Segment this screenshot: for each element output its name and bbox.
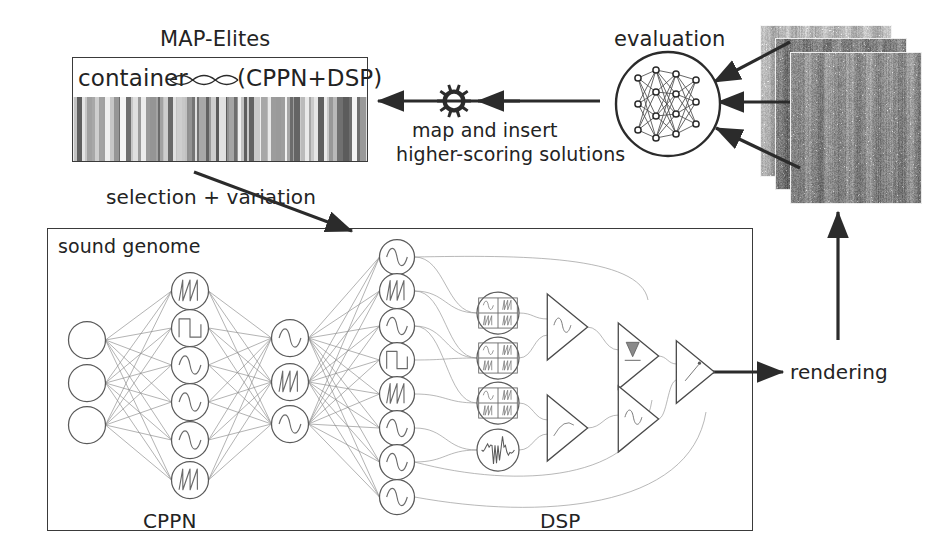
container-label: container: [78, 66, 188, 92]
map-elites-title: MAP-Elites: [160, 28, 270, 52]
yamnet-label: YAMNet: [645, 60, 695, 75]
sound-genome-title: sound genome: [58, 236, 201, 257]
rendering-label: rendering: [790, 361, 888, 383]
diagram-canvas: MAP-Elites container (CPPN+DSP) selectio…: [0, 0, 949, 552]
evaluation-title: evaluation: [614, 28, 725, 52]
sound-genome-box: [47, 228, 753, 531]
map-insert-label-line1: map and insert: [412, 120, 558, 141]
spectrogram-image-3: [790, 52, 922, 204]
archive-cell: [366, 97, 367, 161]
archive-heatmap-strip: [73, 97, 367, 161]
dsp-label: DSP: [540, 510, 580, 532]
cppn-label: CPPN: [143, 510, 196, 532]
gear-icon: [437, 85, 471, 118]
dnn-label: DNN: [659, 131, 689, 146]
map-insert-label-line2: higher-scoring solutions: [396, 144, 625, 165]
genotype-label: (CPPN+DSP): [237, 66, 382, 92]
selection-variation-label: selection + variation: [106, 186, 316, 208]
